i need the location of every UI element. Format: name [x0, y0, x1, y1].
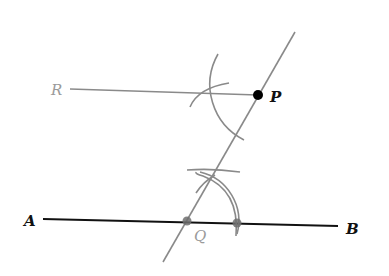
point-arc-on-ab — [233, 219, 242, 228]
label-a: A — [22, 212, 36, 230]
point-p — [253, 90, 263, 100]
transversal-line-qp — [163, 32, 295, 262]
label-r: R — [50, 81, 62, 99]
arc-centered-p — [210, 54, 244, 140]
label-p: P — [269, 88, 282, 106]
label-b: B — [345, 220, 359, 238]
arc-crossing-lower-1 — [187, 169, 240, 172]
label-q: Q — [194, 227, 206, 245]
parallel-line-construction-diagram: R P A B Q — [0, 0, 389, 276]
line-rp — [70, 89, 258, 95]
point-q — [183, 217, 192, 226]
